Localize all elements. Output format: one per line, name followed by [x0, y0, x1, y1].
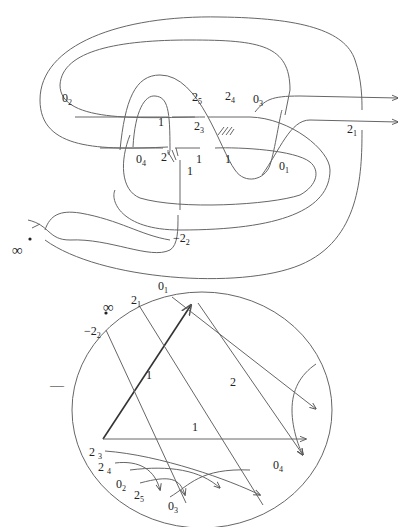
- strand-arch: [133, 96, 170, 154]
- label-0-1: 01: [158, 280, 168, 297]
- label-minus-2-2: −22: [84, 325, 101, 342]
- label-1: 1: [192, 421, 198, 433]
- label-2-5: 25: [192, 91, 202, 108]
- label-1: 1: [196, 153, 202, 165]
- label-0-3: 03: [253, 93, 263, 110]
- label-1: 1: [225, 153, 231, 165]
- infinity-label: ∞: [103, 301, 114, 313]
- label-minus-2-2: −22: [173, 232, 190, 249]
- label-0-4: 04: [273, 459, 283, 476]
- label-1: 1: [146, 369, 152, 381]
- label-1: 1: [187, 165, 193, 177]
- label-0-1: 01: [279, 160, 289, 177]
- label-1: 1: [158, 116, 164, 128]
- label-2-1: 21: [347, 123, 357, 140]
- label-2: 2: [161, 151, 167, 163]
- sign-dash: —: [50, 380, 64, 392]
- strand-right-vertical: [45, 130, 362, 279]
- label-0-4: 04: [136, 153, 146, 170]
- label-2-1: 21: [131, 294, 141, 311]
- label-2-4: 2 4: [98, 461, 111, 478]
- chord-circle: [72, 292, 332, 527]
- knot-diagram: [0, 0, 398, 527]
- label-2: 2: [230, 376, 236, 388]
- label-0-2: 02: [62, 92, 72, 109]
- label-2-4: 24: [225, 90, 235, 107]
- label-0-3: 03: [168, 500, 178, 517]
- label-0-2: 02: [116, 478, 126, 495]
- label-2-5: 25: [134, 489, 144, 506]
- label-2-3: 23: [194, 120, 204, 137]
- infinity-label: ∞: [12, 244, 23, 256]
